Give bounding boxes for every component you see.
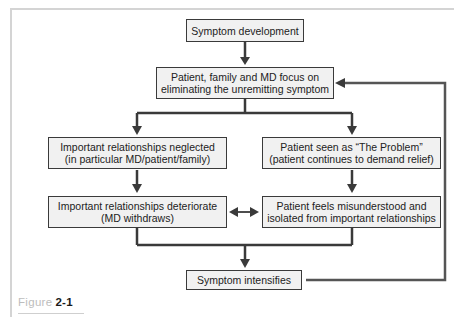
node-focus-on-eliminating-symptom: Patient, family and MD focus on eliminat… (156, 67, 334, 99)
node-text: Patient feels misunderstood and (276, 200, 426, 212)
node-text: Patient, family and MD focus on (171, 71, 319, 83)
arrowhead-down-icon (240, 57, 250, 65)
node-symptom-development: Symptom development (186, 19, 304, 42)
node-relationships-neglected: Important relationships neglected (in pa… (48, 137, 227, 169)
figure-number: 2-1 (55, 296, 73, 308)
node-patient-seen-as-problem: Patient seen as “The Problem” (patient c… (262, 137, 441, 169)
node-text: eliminating the unremitting symptom (161, 83, 329, 95)
arrowhead-left-icon (229, 207, 238, 217)
arrowhead-down-icon (347, 126, 357, 135)
node-relationships-deteriorate: Important relationships deteriorate (MD … (48, 196, 227, 228)
node-text: Important relationships deteriorate (58, 200, 217, 212)
arrowhead-down-icon (347, 184, 357, 193)
node-text: (in particular MD/patient/family) (65, 153, 210, 165)
node-text: (MD withdraws) (101, 212, 174, 224)
node-text: Important relationships neglected (60, 141, 215, 153)
caption-underline (18, 313, 84, 314)
arrowhead-right-icon (250, 207, 259, 217)
figure-caption: Figure2-1 (18, 296, 73, 308)
arrowhead-left-icon (335, 78, 345, 88)
node-text: Patient seen as “The Problem” (280, 141, 422, 153)
node-patient-feels-isolated: Patient feels misunderstood and isolated… (262, 196, 441, 228)
node-text: (patient continues to demand relief) (269, 153, 434, 165)
arrowhead-down-icon (240, 259, 250, 268)
figure-label: Figure (18, 296, 52, 308)
arrowhead-down-icon (132, 184, 142, 193)
arrowhead-down-icon (132, 126, 142, 135)
node-symptom-intensifies: Symptom intensifies (186, 270, 302, 290)
node-text: Symptom intensifies (197, 274, 291, 286)
node-text: isolated from important relationships (267, 212, 436, 224)
node-text: Symptom development (191, 25, 298, 37)
